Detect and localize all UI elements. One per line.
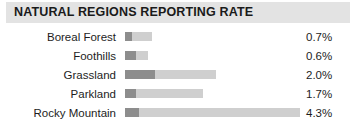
bar-light-segment-rocky-mountain — [139, 108, 300, 117]
page-title: NATURAL REGIONS REPORTING RATE — [14, 5, 253, 20]
chart-row: Parkland 1.7% — [0, 85, 356, 104]
bar-track-parkland — [125, 89, 305, 98]
row-label-boreal-forest: Boreal Forest — [0, 30, 116, 44]
row-label-rocky-mountain: Rocky Mountain — [0, 106, 116, 120]
row-value-parkland: 1.7% — [306, 87, 352, 101]
row-value-foothills: 0.6% — [306, 49, 352, 63]
bar-track-boreal-forest — [125, 32, 305, 41]
bar-track-grassland — [125, 70, 305, 79]
bar-dark-segment-parkland — [125, 89, 136, 98]
row-value-boreal-forest: 0.7% — [306, 30, 352, 44]
chart-row: Rocky Mountain 4.3% — [0, 104, 356, 123]
row-value-grassland: 2.0% — [306, 68, 352, 82]
bar-track-rocky-mountain — [125, 108, 305, 117]
natural-regions-reporting-rate-widget: NATURAL REGIONS REPORTING RATE Boreal Fo… — [0, 0, 356, 134]
header-band: NATURAL REGIONS REPORTING RATE — [6, 2, 350, 23]
row-label-grassland: Grassland — [0, 68, 116, 82]
bar-dark-segment-grassland — [125, 70, 155, 79]
bar-dark-segment-rocky-mountain — [125, 108, 139, 117]
row-label-parkland: Parkland — [0, 87, 116, 101]
bar-track-foothills — [125, 51, 305, 60]
bar-light-segment-grassland — [155, 70, 216, 79]
row-value-rocky-mountain: 4.3% — [306, 106, 352, 120]
chart-row: Boreal Forest 0.7% — [0, 28, 356, 47]
row-label-foothills: Foothills — [0, 49, 116, 63]
bar-light-segment-parkland — [136, 89, 203, 98]
bar-dark-segment-boreal-forest — [125, 32, 132, 41]
bar-chart: Boreal Forest 0.7% Foothills 0.6% Grassl… — [0, 28, 356, 123]
bar-dark-segment-foothills — [125, 51, 136, 60]
bar-light-segment-foothills — [136, 51, 148, 60]
chart-row: Grassland 2.0% — [0, 66, 356, 85]
chart-row: Foothills 0.6% — [0, 47, 356, 66]
bar-light-segment-boreal-forest — [132, 32, 152, 41]
